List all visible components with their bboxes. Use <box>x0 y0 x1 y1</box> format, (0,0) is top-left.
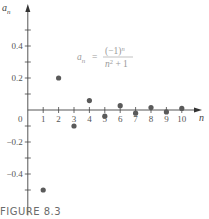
y-tick-label: 0.2 <box>12 73 23 83</box>
data-point <box>41 187 46 192</box>
data-point <box>148 105 153 110</box>
y-tick-label: 0.4 <box>12 41 24 51</box>
origin-label: 0 <box>18 114 23 124</box>
x-tick-label: 8 <box>149 114 154 124</box>
x-tick-label: 6 <box>118 114 123 124</box>
x-tick-label: 9 <box>164 114 169 124</box>
data-point <box>102 114 107 119</box>
sequence-scatter-chart: 123456789100.40.2−0.2−0.4 an n 0 an = (−… <box>0 0 209 219</box>
y-tick-label: −0.4 <box>6 169 23 179</box>
data-point <box>118 103 123 108</box>
x-tick-label: 2 <box>56 114 61 124</box>
figure-caption: FIGURE 8.3 <box>0 206 61 217</box>
x-axis-label: n <box>199 112 204 123</box>
y-tick-label: −0.2 <box>6 137 22 147</box>
svg-text:=: = <box>92 52 97 62</box>
data-point <box>71 123 76 128</box>
axes <box>25 4 202 215</box>
svg-text:(−1)n: (−1)n <box>105 45 125 57</box>
data-point <box>56 75 61 80</box>
data-points <box>41 75 185 192</box>
svg-text:n2 + 1: n2 + 1 <box>105 58 128 69</box>
data-point <box>133 111 138 116</box>
x-tick-label: 1 <box>41 114 46 124</box>
x-tick-label: 4 <box>87 114 92 124</box>
x-tick-label: 3 <box>72 114 77 124</box>
y-axis-arrow-icon <box>25 4 30 12</box>
data-point <box>87 98 92 103</box>
x-tick-label: 10 <box>177 114 187 124</box>
data-point <box>179 106 184 111</box>
svg-text:an: an <box>77 52 86 65</box>
data-point <box>164 109 169 114</box>
y-axis-label: an <box>2 2 11 16</box>
formula: an = (−1)n n2 + 1 <box>77 45 133 69</box>
